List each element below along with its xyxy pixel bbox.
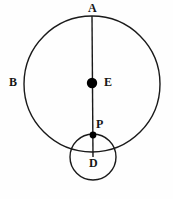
center-point-dot xyxy=(87,78,97,88)
label-point-d: D xyxy=(89,157,98,169)
label-point-a: A xyxy=(88,2,97,14)
tangency-point-dot xyxy=(90,132,97,139)
figure-canvas xyxy=(0,0,173,199)
geometry-figure: A B E P D xyxy=(0,0,173,199)
label-point-b: B xyxy=(9,76,17,88)
label-point-p: P xyxy=(96,118,103,130)
label-point-e: E xyxy=(104,76,112,88)
